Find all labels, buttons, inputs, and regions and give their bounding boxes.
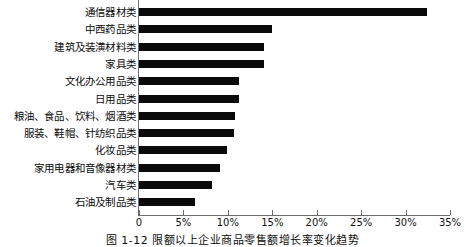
- x-axis-tick: [361, 210, 362, 215]
- bar-row: 石油及制品类: [0, 193, 465, 211]
- bar-row: 家具类: [0, 55, 465, 73]
- category-label: 家具类: [105, 55, 136, 73]
- x-axis-tick-label: 25%: [350, 217, 372, 228]
- bar: [139, 25, 272, 33]
- bar: [139, 112, 235, 120]
- category-label: 粮油、食品、饮料、烟酒类: [14, 107, 136, 125]
- x-axis-tick-label: 5%: [175, 217, 191, 228]
- bar: [139, 43, 264, 51]
- category-label: 汽车类: [105, 176, 136, 194]
- bar: [139, 8, 427, 16]
- x-axis-tick-label: 30%: [394, 217, 416, 228]
- bar: [139, 198, 195, 206]
- bar-row: 建筑及装潢材料类: [0, 38, 465, 56]
- bar-row: 汽车类: [0, 176, 465, 194]
- bar-row: 化妆品类: [0, 141, 465, 159]
- x-axis-tick: [183, 210, 184, 215]
- x-axis-tick: [139, 210, 140, 215]
- x-axis-tick: [272, 210, 273, 215]
- x-axis-tick-label: 0: [136, 217, 142, 228]
- x-axis-tick: [317, 210, 318, 215]
- x-axis-tick: [450, 210, 451, 215]
- bar-row: 粮油、食品、饮料、烟酒类: [0, 107, 465, 125]
- x-axis-tick-label: 15%: [261, 217, 283, 228]
- bar: [139, 181, 212, 189]
- category-label: 日用品类: [95, 90, 136, 108]
- bar: [139, 146, 227, 154]
- x-axis-line: [138, 215, 450, 216]
- figure-caption: 图 1-12 限额以上企业商品零售额增长率变化趋势: [0, 231, 465, 247]
- bar: [139, 60, 264, 68]
- x-axis-tick-label: 35%: [439, 217, 461, 228]
- category-label: 服装、鞋帽、针纺织品类: [24, 124, 136, 142]
- bar: [139, 95, 239, 103]
- plot-area: 通信器材类中西药品类建筑及装潢材料类家具类文化办公用品类日用品类粮油、食品、饮料…: [0, 0, 465, 216]
- category-label: 通信器材类: [85, 3, 136, 21]
- category-label: 家用电器和音像器材类: [34, 159, 136, 177]
- category-label: 文化办公用品类: [65, 72, 136, 90]
- x-axis-tick-label: 20%: [306, 217, 328, 228]
- bar: [139, 129, 234, 137]
- x-axis-tick: [228, 210, 229, 215]
- category-label: 建筑及装潢材料类: [54, 38, 136, 56]
- bar-row: 文化办公用品类: [0, 72, 465, 90]
- bar-row: 中西药品类: [0, 20, 465, 38]
- bar-row: 家用电器和音像器材类: [0, 159, 465, 177]
- x-axis-tick-label: 10%: [217, 217, 239, 228]
- bar-row: 服装、鞋帽、针纺织品类: [0, 124, 465, 142]
- bar: [139, 77, 239, 85]
- category-label: 石油及制品类: [75, 193, 136, 211]
- bar-row: 日用品类: [0, 90, 465, 108]
- category-label: 中西药品类: [85, 20, 136, 38]
- bar: [139, 164, 220, 172]
- x-axis-tick: [406, 210, 407, 215]
- bar-row: 通信器材类: [0, 3, 465, 21]
- category-label: 化妆品类: [95, 141, 136, 159]
